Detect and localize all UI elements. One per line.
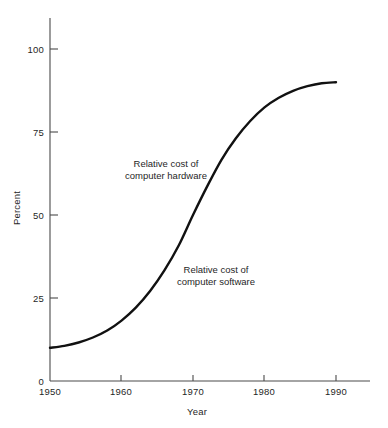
x-tick-label-1990: 1990 [325,386,347,397]
chart-plot-area [0,0,388,428]
hardware-annotation-line-2: computer hardware [125,170,207,182]
hardware-annotation: Relative cost of computer hardware [125,158,207,182]
software-annotation: Relative cost of computer software [177,264,255,288]
chart-container: 100 75 50 25 0 1950 1960 1970 1980 1990 … [0,0,388,428]
x-axis-title: Year [187,406,207,417]
y-tick-label-75: 75 [24,127,44,138]
x-axis-ticks [121,375,336,381]
y-axis-title: Percent [11,191,22,225]
y-tick-label-100: 100 [24,44,44,55]
x-tick-label-1950: 1950 [39,386,61,397]
y-tick-label-25: 25 [24,293,44,304]
y-tick-label-0: 0 [24,376,44,387]
y-tick-label-50: 50 [24,210,44,221]
x-tick-label-1980: 1980 [253,386,275,397]
software-annotation-line-1: Relative cost of [177,264,255,276]
x-tick-label-1970: 1970 [182,386,204,397]
y-axis-ticks [50,49,58,298]
software-annotation-line-2: computer software [177,276,255,288]
cost-crossover-curve [50,82,336,348]
hardware-annotation-line-1: Relative cost of [125,158,207,170]
x-tick-label-1960: 1960 [110,386,132,397]
